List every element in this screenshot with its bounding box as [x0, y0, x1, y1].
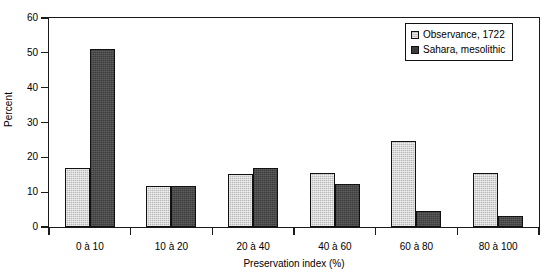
x-axis-tick: [293, 228, 294, 235]
x-axis-tick-label: 0 à 10: [49, 241, 131, 252]
bar: [171, 186, 196, 227]
y-axis-tick-label: 20: [4, 152, 38, 162]
y-axis-tick-label: 10: [4, 187, 38, 197]
bar: [228, 174, 253, 227]
bar: [498, 216, 523, 227]
legend: Observance, 1722 Sahara, mesolithic: [405, 23, 513, 61]
bar: [335, 184, 360, 227]
legend-item-label: Observance, 1722: [423, 29, 505, 40]
y-axis-tick-label: 60: [4, 13, 38, 23]
y-axis-tick-label: 0: [4, 222, 38, 232]
bar-group: [212, 18, 294, 227]
bar: [253, 168, 278, 227]
x-axis-tick: [457, 228, 458, 235]
x-axis-tick: [130, 228, 131, 235]
x-axis-tick: [375, 228, 376, 235]
bar: [146, 186, 171, 227]
x-axis-tick: [538, 228, 539, 235]
light-gray-square-icon: [411, 31, 419, 39]
bar: [391, 141, 416, 227]
bar-group: [49, 18, 131, 227]
y-axis-tick-label: 40: [4, 83, 38, 93]
legend-item: Observance, 1722: [411, 28, 505, 41]
bar-group: [294, 18, 376, 227]
x-axis-tick: [212, 228, 213, 235]
legend-item: Sahara, mesolithic: [411, 43, 505, 56]
x-axis-tick-label: 10 à 20: [131, 241, 213, 252]
legend-item-label: Sahara, mesolithic: [423, 44, 505, 55]
bar: [65, 168, 90, 227]
x-axis-tick-label: 80 à 100: [457, 241, 539, 252]
bar: [90, 49, 115, 227]
bar: [473, 173, 498, 227]
x-axis-tick-label: 20 à 40: [212, 241, 294, 252]
x-axis-title: Preservation index (%): [48, 258, 540, 269]
bar-group: [131, 18, 213, 227]
x-axis-tick-label: 40 à 60: [294, 241, 376, 252]
bar-chart: Percent 0102030405060 0 à 1010 à 2020 à …: [0, 0, 551, 274]
bar: [310, 173, 335, 227]
dark-gray-square-icon: [411, 46, 419, 54]
x-axis-tick-label: 60 à 80: [376, 241, 458, 252]
x-axis-tick: [48, 228, 49, 235]
bar: [416, 211, 441, 227]
y-axis-tick-label: 30: [4, 118, 38, 128]
y-axis-tick-label: 50: [4, 48, 38, 58]
